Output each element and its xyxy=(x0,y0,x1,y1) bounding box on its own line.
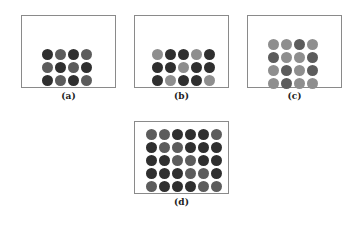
dot xyxy=(178,49,189,60)
dot xyxy=(81,49,92,60)
dot xyxy=(185,168,196,179)
panel-b-dot-grid xyxy=(152,49,215,86)
dot xyxy=(211,168,222,179)
dot xyxy=(146,181,157,192)
dot xyxy=(198,155,209,166)
panel-d-dot-grid xyxy=(146,129,222,192)
dot xyxy=(211,155,222,166)
dot xyxy=(204,62,215,73)
dot xyxy=(68,62,79,73)
dot xyxy=(42,75,53,86)
dot xyxy=(146,168,157,179)
dot xyxy=(172,142,183,153)
dot xyxy=(185,142,196,153)
panel-c-dot-grid xyxy=(268,39,318,89)
dot xyxy=(185,181,196,192)
dot xyxy=(159,142,170,153)
dot xyxy=(204,75,215,86)
dot xyxy=(198,181,209,192)
dot xyxy=(191,75,202,86)
dot xyxy=(211,129,222,140)
dot xyxy=(165,75,176,86)
dot xyxy=(281,65,292,76)
dot xyxy=(198,142,209,153)
dot xyxy=(146,129,157,140)
dot xyxy=(172,168,183,179)
dot xyxy=(268,39,279,50)
dot xyxy=(172,155,183,166)
dot xyxy=(42,62,53,73)
dot xyxy=(55,75,66,86)
dot xyxy=(146,142,157,153)
dot xyxy=(81,75,92,86)
dot xyxy=(307,65,318,76)
dot xyxy=(268,78,279,89)
dot xyxy=(172,129,183,140)
dot xyxy=(294,52,305,63)
dot xyxy=(152,49,163,60)
dot xyxy=(268,65,279,76)
panel-b-caption: (b) xyxy=(162,91,202,101)
dot xyxy=(159,168,170,179)
dot xyxy=(294,39,305,50)
dot xyxy=(281,39,292,50)
dot xyxy=(172,181,183,192)
panel-d-caption: (d) xyxy=(162,197,202,207)
dot xyxy=(281,52,292,63)
dot xyxy=(191,49,202,60)
dot xyxy=(159,155,170,166)
dot xyxy=(294,78,305,89)
dot xyxy=(165,49,176,60)
dot xyxy=(307,78,318,89)
dot xyxy=(159,129,170,140)
dot xyxy=(68,75,79,86)
dot xyxy=(307,39,318,50)
dot xyxy=(185,155,196,166)
dot xyxy=(178,62,189,73)
dot xyxy=(281,78,292,89)
dot xyxy=(211,142,222,153)
dot xyxy=(185,129,196,140)
dot xyxy=(146,155,157,166)
dot xyxy=(191,62,202,73)
panel-c-caption: (c) xyxy=(275,91,315,101)
dot xyxy=(55,49,66,60)
dot xyxy=(152,75,163,86)
dot xyxy=(178,75,189,86)
panel-a-caption: (a) xyxy=(49,91,89,101)
dot xyxy=(198,129,209,140)
dot xyxy=(307,52,318,63)
dot xyxy=(204,49,215,60)
dot xyxy=(152,62,163,73)
dot xyxy=(159,181,170,192)
dot xyxy=(211,181,222,192)
dot xyxy=(68,49,79,60)
dot xyxy=(198,168,209,179)
panel-a-dot-grid xyxy=(42,49,92,86)
dot xyxy=(42,49,53,60)
dot xyxy=(165,62,176,73)
dot xyxy=(268,52,279,63)
dot xyxy=(55,62,66,73)
dot xyxy=(294,65,305,76)
dot xyxy=(81,62,92,73)
